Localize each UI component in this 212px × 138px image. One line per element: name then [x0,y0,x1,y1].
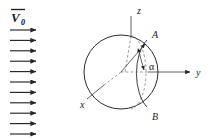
velocity-label-group: V 0 [11,10,25,28]
point-b-group: B [152,111,158,122]
point-a-group: A [151,29,159,40]
z-axis-label: z [136,5,141,16]
x-axis-dashed-inner [104,72,121,85]
x-axis-group: x [79,72,121,110]
velocity-label-v: V [11,10,21,25]
flow-past-sphere-diagram: V 0 z [0,0,212,138]
y-axis-label: y [195,67,201,78]
point-b-label: B [152,111,158,122]
z-axis-group: z [125,5,141,72]
alpha-angle-label: α [149,61,155,72]
point-a-label: A [151,29,159,40]
meridian-arc-ab-solid [136,40,147,107]
meridian-ellipse-dashed [131,36,146,110]
radius-to-a-arrow [121,44,145,72]
figure-root: V 0 z [0,0,212,138]
alpha-angle-arc-arrow [139,52,144,70]
y-axis-group: y [121,67,201,78]
x-axis-label: x [79,99,85,110]
velocity-label-subscript: 0 [21,18,25,27]
flow-arrow-field [10,30,36,134]
